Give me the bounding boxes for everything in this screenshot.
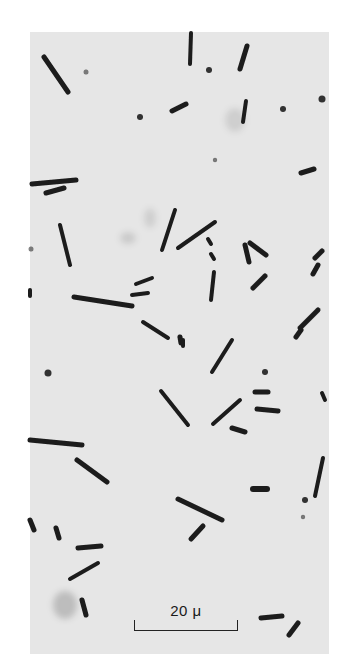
- rod-cell: [211, 254, 214, 259]
- halo: [144, 208, 156, 228]
- halo: [53, 591, 77, 619]
- coccoid-dot: [302, 497, 308, 503]
- rod-cell: [180, 337, 181, 343]
- micrograph-image: [0, 0, 349, 668]
- coccoid-dot: [137, 114, 143, 120]
- scale-bar-label: 20 μ: [134, 602, 238, 619]
- rod-cell: [257, 409, 278, 411]
- rod-cell: [322, 393, 325, 400]
- coccoid-dot: [45, 370, 52, 377]
- rod-cell: [190, 33, 191, 64]
- scale-bar: [134, 620, 238, 631]
- coccoid-dot: [301, 515, 305, 519]
- coccoid-dot: [206, 67, 212, 73]
- halo: [120, 232, 136, 244]
- coccoid-dot: [84, 70, 89, 75]
- rod-cell: [78, 546, 101, 548]
- coccoid-dot: [280, 106, 286, 112]
- coccoid-dot: [262, 369, 268, 375]
- rod-cell: [208, 239, 211, 244]
- rod-cell: [132, 293, 148, 295]
- rod-cell: [261, 616, 282, 618]
- rod-cell: [56, 528, 59, 538]
- coccoid-dot: [29, 247, 34, 252]
- coccoid-dot: [213, 158, 217, 162]
- coccoid-dot: [319, 96, 326, 103]
